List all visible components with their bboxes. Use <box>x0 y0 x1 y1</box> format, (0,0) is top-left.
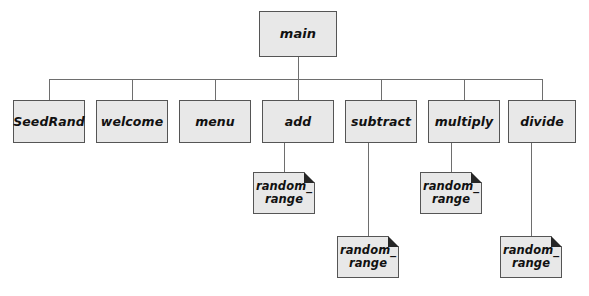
node-shadow-right <box>333 105 338 147</box>
node-shadow-bottom <box>350 142 421 147</box>
connector-drop-seedrand <box>49 79 50 100</box>
connector-bus <box>49 79 542 80</box>
connector-add-to-rr-add <box>284 143 285 172</box>
folded-corner-icon <box>551 236 562 247</box>
node-shadow-right <box>399 242 404 283</box>
node-shadow-right <box>84 105 89 147</box>
node-shadow-right <box>499 105 504 147</box>
connector-drop-add <box>298 79 299 100</box>
node-shadow-right <box>575 105 580 147</box>
node-label: welcome <box>101 115 164 129</box>
node-shadow-bottom <box>433 142 504 147</box>
node-welcome[interactable]: welcome <box>96 100 168 143</box>
connector-main-stem <box>298 57 299 79</box>
connector-drop-subtract <box>381 79 382 100</box>
function-hierarchy-diagram: mainSeedRandwelcomemenuaddsubtractmultip… <box>0 0 589 296</box>
node-shadow-bottom <box>264 56 341 61</box>
node-rr-subtract[interactable]: random_range <box>337 236 399 278</box>
node-add[interactable]: add <box>262 100 334 143</box>
node-shadow-bottom <box>267 142 338 147</box>
node-main[interactable]: main <box>259 11 337 57</box>
node-shadow-bottom <box>341 278 404 283</box>
node-label: menu <box>195 115 235 129</box>
node-shadow-bottom <box>504 278 567 283</box>
node-multiply[interactable]: multiply <box>428 100 500 143</box>
connector-drop-menu <box>215 79 216 100</box>
node-label: SeedRand <box>13 115 85 129</box>
node-rr-add[interactable]: random_range <box>253 172 315 214</box>
folded-corner-icon <box>388 236 399 247</box>
node-shadow-bottom <box>257 214 320 219</box>
node-shadow-bottom <box>424 214 487 219</box>
connector-divide-to-rr-divide <box>531 143 532 236</box>
node-shadow-right <box>315 178 320 219</box>
node-label: divide <box>520 115 564 129</box>
node-label: subtract <box>351 115 411 129</box>
node-shadow-right <box>167 105 172 147</box>
node-label: add <box>285 115 312 129</box>
node-shadow-right <box>336 16 341 61</box>
connector-subtract-to-rr-subtract <box>368 143 369 236</box>
node-shadow-right <box>250 105 255 147</box>
node-seedrand[interactable]: SeedRand <box>13 100 85 143</box>
node-shadow-right <box>562 242 567 283</box>
connector-drop-multiply <box>464 79 465 100</box>
node-shadow-bottom <box>18 142 89 147</box>
folded-corner-icon <box>471 172 482 183</box>
node-menu[interactable]: menu <box>179 100 251 143</box>
connector-drop-welcome <box>132 79 133 100</box>
folded-corner-icon <box>304 172 315 183</box>
connector-drop-divide <box>542 79 543 100</box>
node-divide[interactable]: divide <box>508 100 576 143</box>
node-shadow-bottom <box>101 142 172 147</box>
node-shadow-bottom <box>184 142 255 147</box>
node-label: main <box>280 27 316 42</box>
connector-multiply-to-rr-multiply <box>451 143 452 172</box>
node-rr-multiply[interactable]: random_range <box>420 172 482 214</box>
node-shadow-bottom <box>513 142 580 147</box>
node-shadow-right <box>416 105 421 147</box>
node-label: multiply <box>435 115 494 129</box>
node-shadow-right <box>482 178 487 219</box>
node-rr-divide[interactable]: random_range <box>500 236 562 278</box>
node-subtract[interactable]: subtract <box>345 100 417 143</box>
